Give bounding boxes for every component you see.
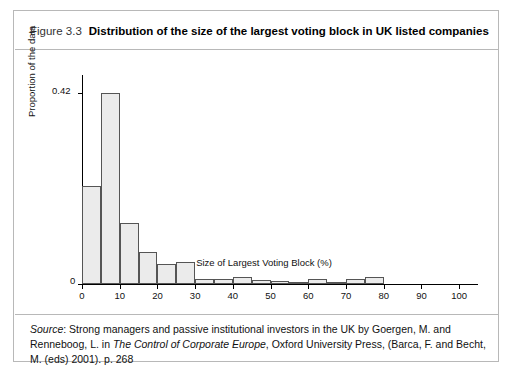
x-tick-mark	[82, 285, 83, 289]
figure-number: Figure 3.3	[30, 25, 82, 37]
x-tick-label: 20	[152, 290, 163, 301]
x-tick-label: 100	[451, 290, 467, 301]
x-tick-label: 30	[190, 290, 201, 301]
x-tick-mark	[271, 285, 272, 289]
chart-plot-area: Proportion of the data 0.42 0 0102030405…	[30, 57, 485, 307]
figure-caption: Figure 3.3Distribution of the size of th…	[30, 25, 485, 37]
histogram-bar	[101, 93, 120, 284]
x-tick-label: 80	[378, 290, 389, 301]
x-tick-mark	[195, 285, 196, 289]
histogram-bar	[289, 282, 308, 284]
x-tick-mark	[421, 285, 422, 289]
figure-title: Distribution of the size of the largest …	[89, 25, 489, 37]
x-tick-label: 90	[416, 290, 427, 301]
source-note: Source: Strong managers and passive inst…	[30, 322, 488, 367]
histogram-bar	[346, 279, 365, 284]
x-tick-label: 60	[303, 290, 314, 301]
x-tick-label: 70	[341, 290, 352, 301]
histogram-bar	[120, 223, 139, 284]
y-tick-label-0: 0	[70, 275, 75, 286]
x-tick-mark	[308, 285, 309, 289]
histogram-bar	[195, 279, 214, 284]
histogram-bar	[327, 282, 346, 284]
histogram-bar	[233, 277, 252, 284]
y-axis-label: Proportion of the data	[26, 0, 37, 117]
chart-axes: 0102030405060708090100	[82, 75, 478, 285]
x-tick-mark	[120, 285, 121, 289]
y-tick-label-042: 0.42	[52, 85, 71, 96]
x-tick-mark	[459, 285, 460, 289]
caption-divider	[15, 49, 499, 50]
x-tick-label: 40	[228, 290, 239, 301]
x-tick-label: 50	[265, 290, 276, 301]
histogram-bar	[252, 280, 271, 284]
x-axis-line	[82, 284, 478, 285]
x-tick-label: 0	[79, 290, 84, 301]
x-axis-label: Size of Largest Voting Block (%)	[66, 257, 462, 268]
histogram-bar	[308, 279, 327, 284]
histogram-bar	[82, 186, 101, 284]
y-tick-mark	[78, 284, 82, 285]
x-tick-label: 10	[114, 290, 125, 301]
x-tick-mark	[157, 285, 158, 289]
x-tick-mark	[346, 285, 347, 289]
source-divider	[15, 314, 499, 315]
histogram-bar	[271, 281, 290, 284]
histogram-bar	[365, 277, 384, 284]
x-tick-mark	[233, 285, 234, 289]
source-label: Source	[30, 323, 63, 335]
figure-container: Figure 3.3Distribution of the size of th…	[13, 10, 499, 362]
y-tick-mark	[78, 93, 82, 94]
histogram-bar	[214, 279, 233, 284]
source-book-title: The Control of Corporate Europe	[113, 338, 266, 350]
x-tick-mark	[384, 285, 385, 289]
